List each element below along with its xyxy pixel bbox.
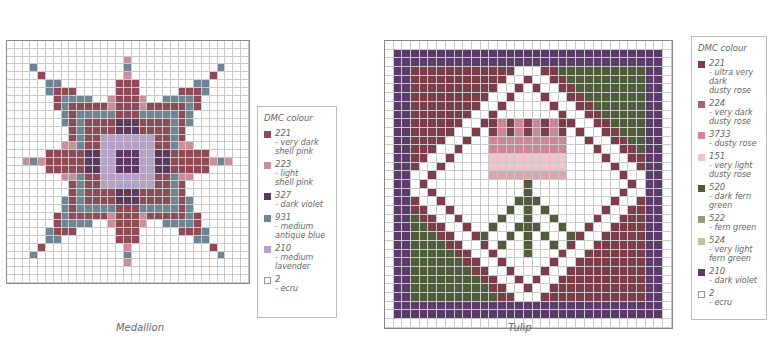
legend-item: 151- very light dusty rose [698,152,760,179]
color-swatch-icon [698,216,705,223]
legend-label: 931- medium antique blue [275,213,325,240]
legend-item: 210- dark violet [698,267,760,285]
legend-item: 2- ecru [264,275,330,293]
legend-label: 520- dark fern green [709,183,760,210]
legend-label: 210- medium lavender [275,244,313,271]
legend-item: 223- light shell pink [264,160,330,187]
legend-item: 524- very light fern green [698,236,760,263]
medallion-caption: Medallion [100,322,180,333]
legend-item: 221- very dark shell pink [264,129,330,156]
color-swatch-icon [698,132,705,139]
legend-label: 210- dark violet [709,267,757,285]
tulip-legend-items: 221- ultra very dark dusty rose224- very… [698,59,760,307]
color-swatch-icon [264,131,271,138]
color-swatch-icon [698,291,705,298]
tulip-legend: DMC colour 221- ultra very dark dusty ro… [691,36,767,320]
legend-item: 931- medium antique blue [264,213,330,240]
color-swatch-icon [264,277,271,284]
color-swatch-icon [698,238,705,245]
color-swatch-icon [698,154,705,161]
tulip-chart [384,40,673,329]
legend-item: 522- fern green [698,214,760,232]
medallion-legend-items: 221- very dark shell pink223- light shel… [264,129,330,293]
legend-item: 2- ecru [698,289,760,307]
legend-label: 524- very light fern green [709,236,752,263]
legend-label: 522- fern green [709,214,756,232]
color-swatch-icon [264,215,271,222]
legend-item: 221- ultra very dark dusty rose [698,59,760,95]
legend-label: 327- dark violet [275,191,323,209]
legend-label: 2- ecru [709,289,732,307]
color-swatch-icon [264,162,271,169]
color-swatch-icon [698,61,705,68]
tulip-legend-title: DMC colour [698,43,760,53]
tulip-caption: Tulip [480,322,560,333]
legend-item: 210- medium lavender [264,244,330,271]
color-swatch-icon [698,101,705,108]
tulip-stitch-grid [384,40,673,329]
legend-label: 3733- dusty rose [709,130,756,148]
legend-label: 224- very dark dusty rose [709,99,753,126]
legend-label: 223- light shell pink [275,160,313,187]
medallion-legend-title: DMC colour [264,113,330,123]
legend-label: 2- ecru [275,275,298,293]
legend-label: 151- very light dusty rose [709,152,752,179]
legend-item: 224- very dark dusty rose [698,99,760,126]
medallion-stitch-grid [6,40,250,284]
color-swatch-icon [698,185,705,192]
color-swatch-icon [698,269,705,276]
color-swatch-icon [264,246,271,253]
color-swatch-icon [264,193,271,200]
legend-label: 221- very dark shell pink [275,129,319,156]
medallion-legend: DMC colour 221- very dark shell pink223-… [257,106,337,318]
legend-item: 3733- dusty rose [698,130,760,148]
legend-item: 327- dark violet [264,191,330,209]
medallion-chart [6,40,250,284]
legend-label: 221- ultra very dark dusty rose [709,59,760,95]
legend-item: 520- dark fern green [698,183,760,210]
